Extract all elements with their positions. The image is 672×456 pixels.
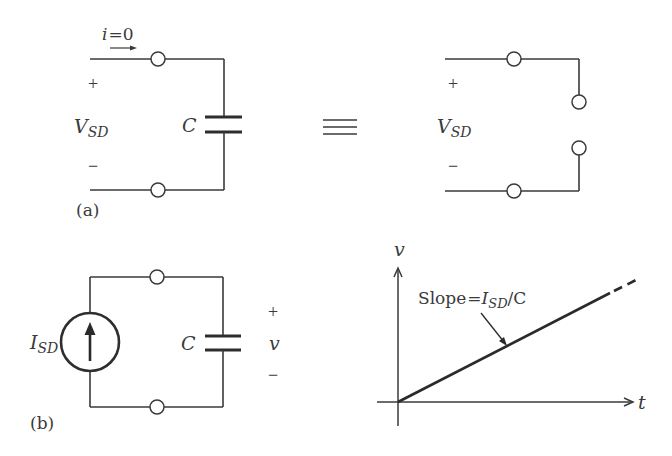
- panel-a-plus: +: [88, 74, 98, 94]
- open-vsd-label: VSD: [437, 115, 472, 140]
- panel-b-isd-label: ISD: [29, 331, 58, 356]
- equivalence-icon: [323, 120, 357, 134]
- panel-a-label: (a): [76, 200, 99, 220]
- open-terminal-top: [507, 52, 521, 66]
- x-axis-label: t: [638, 391, 646, 413]
- panel-a-minus: −: [88, 156, 98, 176]
- panel-b-label: (b): [30, 413, 54, 433]
- panel-a-terminal-top: [151, 52, 165, 66]
- open-minus: −: [448, 156, 458, 176]
- panel-b-plus: +: [268, 302, 278, 322]
- panel-a-circuit: [90, 46, 242, 198]
- slope-annotation: Slope=ISD/C: [418, 288, 526, 311]
- open-terminal-bottom: [507, 184, 521, 198]
- open-terminal-lower: [572, 141, 586, 155]
- open-terminal-upper: [572, 95, 586, 109]
- panel-b-circuit: [61, 270, 241, 414]
- panel-b-minus: −: [268, 365, 278, 385]
- open-plus: +: [448, 74, 458, 94]
- capacitor-dc-figure: i=0 + VSD − C (a) + VSD −: [0, 0, 672, 456]
- panel-a-current-label: i=0: [102, 24, 134, 44]
- panel-b-capacitor-label: C: [181, 332, 196, 354]
- panel-b-terminal-top: [150, 270, 164, 284]
- slope-annotation-arrow-icon: [499, 337, 507, 346]
- y-axis-label: v: [394, 238, 405, 260]
- slope-annotation-arrow-shaft: [481, 313, 504, 342]
- panel-a-vsd-label: VSD: [74, 115, 109, 140]
- panel-a-terminal-bottom: [151, 183, 165, 197]
- panel-b-terminal-bottom: [150, 400, 164, 414]
- panel-a-current-arrow-icon: [130, 46, 137, 51]
- ramp-line-dashed-continuation: [614, 279, 638, 291]
- panel-a-capacitor-label: C: [182, 114, 197, 136]
- panel-b-v-label: v: [269, 332, 280, 354]
